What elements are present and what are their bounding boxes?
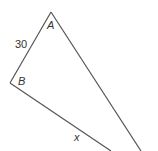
vertex-a-label: A <box>47 20 54 31</box>
triangle-diagram: A 30 B x <box>0 0 158 151</box>
side-a-to-c <box>51 12 141 151</box>
side-x <box>10 83 111 151</box>
side-ab-length-label: 30 <box>15 39 27 50</box>
vertex-b-label: B <box>18 76 25 87</box>
side-x-label: x <box>74 132 80 143</box>
